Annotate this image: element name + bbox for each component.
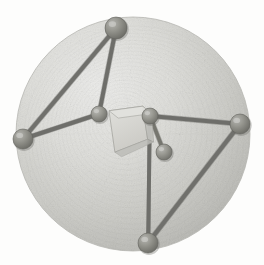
molecular-sphere-figure — [0, 0, 264, 265]
figure-canvas — [0, 0, 264, 265]
